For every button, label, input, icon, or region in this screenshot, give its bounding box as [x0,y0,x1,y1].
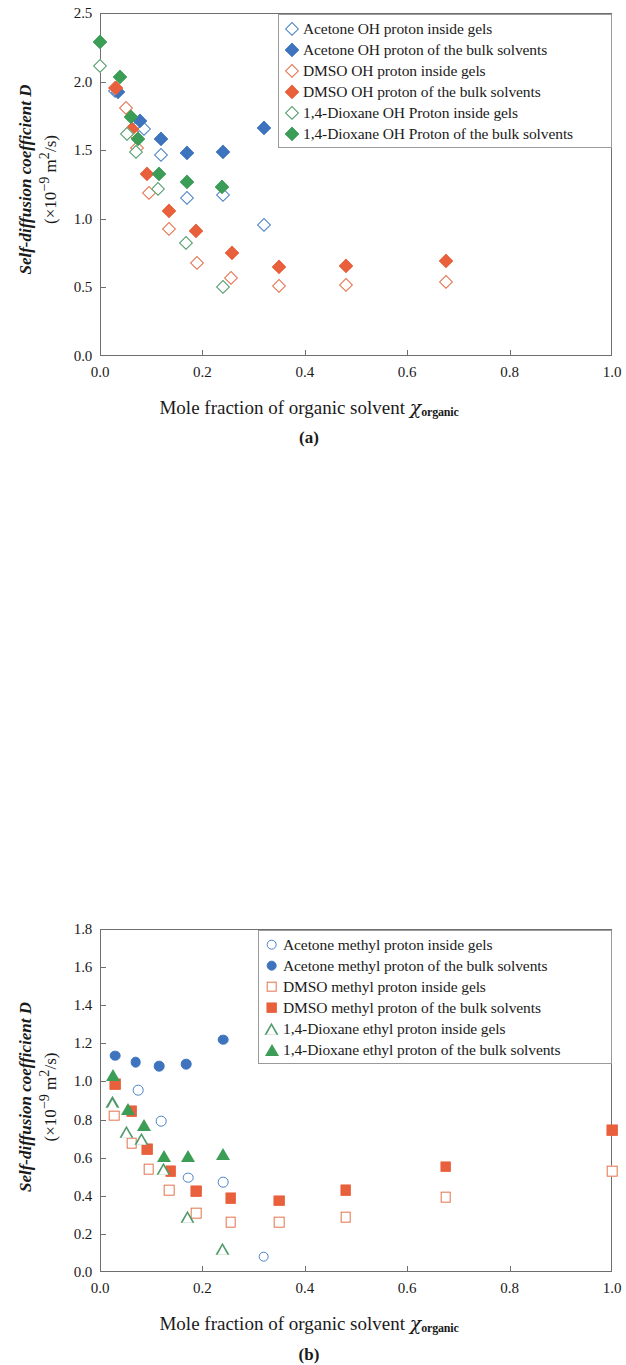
marker-triangle [106,1069,120,1081]
y-tick-mark [100,287,106,288]
legend-item[interactable]: DMSO methyl proton inside gels [263,976,606,997]
legend-marker-square [263,978,280,995]
x-tick-label: 0.0 [72,365,128,380]
legend-item[interactable]: 1,4-Dioxane ethyl proton of the bulk sol… [263,1039,606,1060]
marker-triangle [121,1103,135,1115]
x-tick-mark [202,1266,203,1272]
legend-item[interactable]: DMSO OH proton inside gels [283,60,606,81]
y-axis-symbol: D [16,1002,35,1014]
legend-label: Acetone methyl proton of the bulk solven… [283,958,547,974]
legend-label: DMSO methyl proton of the bulk solvents [283,1000,541,1016]
marker-square [274,1195,285,1206]
marker-square [274,1217,285,1228]
marker-circle [110,1050,121,1061]
marker-square [607,1166,618,1177]
legend-label: 1,4-Dioxane ethyl proton of the bulk sol… [283,1042,560,1058]
y-tick-mark [100,1196,106,1197]
marker-square [266,1002,277,1013]
marker-circle [218,1034,229,1045]
y-tick-label: 1.0 [46,211,92,226]
marker-triangle [181,1211,196,1223]
y-tick-label: 0.0 [46,349,92,364]
x-tick-label: 0.4 [277,1281,333,1296]
legend-label: Acetone OH proton of the bulk solvents [303,42,547,58]
marker-triangle [157,1150,171,1162]
legend-marker-diamond [283,125,300,142]
legend-item[interactable]: 1,4-Dioxane ethyl proton inside gels [263,1018,606,1039]
legend-item[interactable]: 1,4-Dioxane OH Proton of the bulk solven… [283,123,606,144]
marker-square [142,1144,153,1155]
legend-marker-diamond [283,83,300,100]
legend-item[interactable]: DMSO OH proton of the bulk solvents [283,81,606,102]
marker-square [340,1185,351,1196]
marker-triangle [216,1148,230,1160]
marker-triangle [134,1132,149,1144]
marker-square [440,1192,451,1203]
y-tick-label: 0.8 [46,1112,92,1127]
legend-item[interactable]: 1,4-Dioxane OH Proton inside gels [283,102,606,123]
x-tick-mark [407,1266,408,1272]
panel-b: Self-diffusion coefficient D (×10−9 m2/s… [0,457,618,914]
y-tick-mark [100,1120,106,1121]
x-tick-label: 0.6 [379,1281,435,1296]
legend-marker-diamond [283,104,300,121]
panel-b-x-axis-title: Mole fraction of organic solvent χorgani… [0,1312,618,1336]
x-tick-mark [510,350,511,356]
y-tick-mark [100,82,106,83]
marker-square [607,1125,618,1136]
y-tick-mark [100,929,106,930]
marker-diamond [284,105,298,119]
y-tick-label: 0.2 [46,1226,92,1241]
marker-square [340,1212,351,1223]
legend-item[interactable]: Acetone OH proton of the bulk solvents [283,39,606,60]
y-tick-label: 1.6 [46,960,92,975]
marker-square [225,1217,236,1228]
marker-square [225,1193,236,1204]
legend-item[interactable]: DMSO methyl proton of the bulk solvents [263,997,606,1018]
y-tick-label: 0.4 [46,1188,92,1203]
legend-label: Acetone OH proton inside gels [303,21,492,37]
marker-square [109,1110,120,1121]
legend-item[interactable]: Acetone methyl proton inside gels [263,934,606,955]
x-tick-label: 0.8 [482,1281,538,1296]
legend-marker-diamond [283,41,300,58]
y-tick-mark [100,1081,106,1082]
y-tick-label: 0.0 [46,1265,92,1280]
marker-square [440,1161,451,1172]
y-tick-label: 1.5 [46,143,92,158]
marker-triangle [264,1022,279,1034]
y-tick-mark [100,1005,106,1006]
panel-a-x-axis-title: Mole fraction of organic solvent χorgani… [0,396,618,420]
panel-a-legend: Acetone OH proton inside gelsAcetone OH … [278,14,612,148]
x-tick-label: 0.2 [174,1281,230,1296]
marker-circle [156,1116,167,1127]
x-tick-label: 0.4 [277,365,333,380]
y-axis-title-text: Self-diffusion coefficient [16,1014,35,1192]
marker-diamond [284,126,298,140]
marker-circle [131,1057,142,1068]
y-tick-mark [100,13,106,14]
marker-circle [266,960,277,971]
x-axis-title-text: Mole fraction of organic solvent [159,1313,409,1334]
legend-label: 1,4-Dioxane OH Proton inside gels [303,105,518,121]
marker-triangle [156,1163,171,1175]
marker-square [266,981,277,992]
y-axis-symbol: D [16,84,35,96]
panel-b-legend: Acetone methyl proton inside gelsAcetone… [258,930,612,1064]
legend-label: DMSO OH proton of the bulk solvents [303,84,541,100]
y-tick-label: 1.2 [46,1036,92,1051]
legend-marker-circle [263,957,280,974]
marker-triangle [119,1126,134,1138]
marker-triangle [137,1119,151,1131]
y-tick-mark [100,1234,106,1235]
marker-circle [154,1061,165,1072]
legend-marker-triangle [263,1020,280,1037]
legend-marker-diamond [283,20,300,37]
y-tick-mark [100,1043,106,1044]
marker-triangle [265,1044,279,1056]
legend-item[interactable]: Acetone methyl proton of the bulk solven… [263,955,606,976]
legend-marker-circle [263,936,280,953]
legend-marker-diamond [283,62,300,79]
legend-item[interactable]: Acetone OH proton inside gels [283,18,606,39]
marker-triangle [181,1150,195,1162]
